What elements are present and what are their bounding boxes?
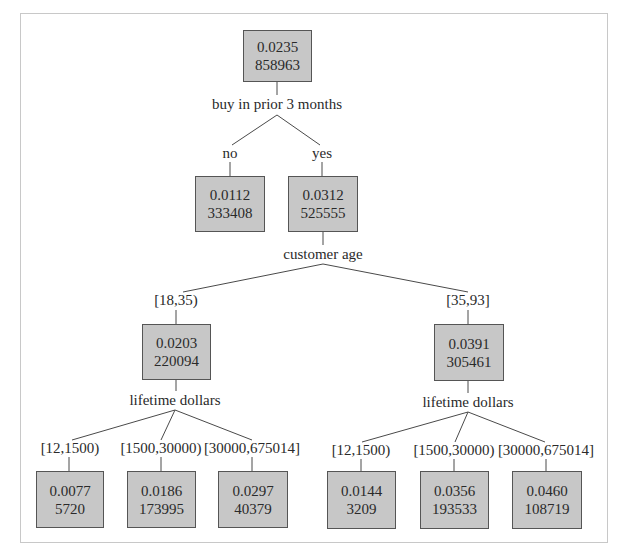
node-rate: 0.0112 — [210, 186, 251, 204]
node-rate: 0.0312 — [302, 186, 343, 204]
node-rate: 0.0297 — [232, 482, 273, 500]
edge-label-leaf: [30000,675014] — [204, 440, 300, 457]
node-age-18-35: 0.0203 220094 — [142, 324, 211, 380]
node-no: 0.0112 333408 — [195, 176, 265, 232]
node-rate: 0.0186 — [141, 482, 182, 500]
node-root: 0.0235 858963 — [243, 30, 312, 82]
node-age-35-93: 0.0391 305461 — [434, 324, 504, 381]
leaf-node: 0.0144 3209 — [327, 471, 396, 529]
node-count: 525555 — [301, 204, 346, 222]
edge-label-age-35-93: [35,93] — [446, 292, 490, 309]
edge-label-leaf: [1500,30000) — [120, 440, 201, 457]
node-count: 193533 — [432, 500, 477, 518]
edge-label-leaf: [12,1500) — [41, 440, 100, 457]
node-rate: 0.0203 — [156, 334, 197, 352]
leaf-node: 0.0356 193533 — [420, 471, 489, 529]
edge-label-leaf: [1500,30000) — [413, 442, 494, 459]
leaf-node: 0.0186 173995 — [127, 471, 196, 528]
split-label-lifetime-dollars-left: lifetime dollars — [129, 392, 220, 409]
node-rate: 0.0235 — [257, 38, 298, 56]
edge-label-leaf: [12,1500) — [332, 442, 391, 459]
node-yes: 0.0312 525555 — [288, 176, 358, 232]
node-count: 40379 — [234, 500, 272, 518]
edge-label-leaf: [30000,675014] — [498, 442, 594, 459]
leaf-node: 0.0297 40379 — [218, 471, 288, 528]
node-count: 108719 — [525, 500, 570, 518]
edge-label-no: no — [223, 145, 238, 162]
node-count: 3209 — [347, 500, 377, 518]
node-rate: 0.0144 — [341, 482, 382, 500]
edge-label-age-18-35: [18,35) — [154, 292, 198, 309]
split-label-customer-age: customer age — [283, 246, 363, 263]
node-rate: 0.0460 — [526, 482, 567, 500]
node-count: 173995 — [139, 500, 184, 518]
node-count: 333408 — [208, 204, 253, 222]
node-rate: 0.0391 — [448, 335, 489, 353]
split-label-lifetime-dollars-right: lifetime dollars — [422, 394, 513, 411]
node-rate: 0.0077 — [49, 482, 90, 500]
node-count: 305461 — [447, 353, 492, 371]
node-count: 220094 — [154, 352, 199, 370]
split-label-root: buy in prior 3 months — [212, 96, 342, 113]
leaf-node: 0.0077 5720 — [36, 471, 104, 528]
node-rate: 0.0356 — [434, 482, 475, 500]
node-count: 5720 — [55, 500, 85, 518]
edge-label-yes: yes — [312, 145, 332, 162]
node-count: 858963 — [255, 56, 300, 74]
leaf-node: 0.0460 108719 — [512, 471, 582, 529]
